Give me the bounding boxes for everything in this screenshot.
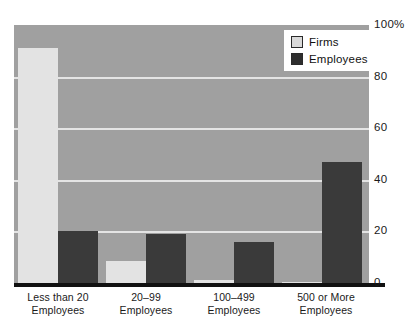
x-label-line1: Less than 20	[14, 291, 102, 304]
bar-employees-less-than-20	[58, 231, 98, 283]
y-tick-40: 40	[374, 173, 387, 185]
x-label-less-than-20: Less than 20 Employees	[14, 291, 102, 316]
bar-firms-less-than-20	[18, 48, 58, 283]
gridline-80	[14, 77, 369, 79]
firms-swatch-icon	[291, 36, 303, 48]
legend-item-firms: Firms	[291, 36, 368, 48]
y-tick-60: 60	[374, 121, 387, 133]
x-label-line1: 100–499	[190, 291, 278, 304]
legend-label-firms: Firms	[309, 36, 339, 48]
x-label-line2: Employees	[190, 304, 278, 317]
y-tick-0: 0	[374, 276, 381, 288]
legend-item-employees: Employees	[291, 53, 368, 65]
y-tick-80: 80	[374, 70, 387, 82]
x-label-line1: 20–99	[102, 291, 190, 304]
gridline-60	[14, 128, 369, 130]
x-label-20-99: 20–99 Employees	[102, 291, 190, 316]
bar-employees-100-499	[234, 242, 274, 283]
bar-firms-20-99	[106, 261, 146, 283]
bar-chart: 100% 80 60 40 20 0 Less than 20 Employee…	[0, 0, 420, 334]
x-label-100-499: 100–499 Employees	[190, 291, 278, 316]
clipped-header-text	[6, 0, 196, 5]
x-label-line2: Employees	[102, 304, 190, 317]
legend-label-employees: Employees	[309, 53, 368, 65]
bar-employees-20-99	[146, 234, 186, 283]
x-label-line2: Employees	[278, 304, 374, 317]
y-tick-20: 20	[374, 224, 387, 236]
x-label-500-or-more: 500 or More Employees	[278, 291, 374, 316]
bar-employees-500-or-more	[322, 162, 362, 283]
x-label-line2: Employees	[14, 304, 102, 317]
y-tick-100: 100%	[374, 18, 405, 30]
gridline-40	[14, 180, 369, 182]
employees-swatch-icon	[291, 53, 303, 65]
chart-legend: Firms Employees	[284, 30, 377, 71]
x-axis-line	[14, 283, 385, 287]
x-label-line1: 500 or More	[278, 291, 374, 304]
